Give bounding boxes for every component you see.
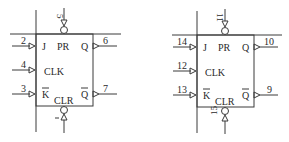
flipflop-diagram: 2 J 4 CLK 3 K PR 5 CLR Q 6 Q 7 (0, 0, 289, 142)
pr-label: PR (57, 41, 70, 52)
qbar-output-arrow-icon (254, 92, 260, 98)
clk-label: CLK (44, 66, 65, 77)
q-pin-number: 6 (103, 35, 108, 46)
qbar-pin-number: 9 (267, 84, 272, 95)
clr-inversion-bubble-icon (61, 107, 68, 114)
clr-inversion-bubble-icon (222, 108, 229, 115)
pr-inversion-bubble-icon (222, 28, 229, 35)
clr-input-arrow-icon (222, 115, 228, 121)
kbar-label: K (42, 89, 50, 100)
q-output-arrow-icon (254, 44, 260, 50)
qbar-pin-number: 7 (103, 83, 108, 94)
clk-pin-number: 4 (21, 59, 26, 70)
qbar-label: Q (242, 90, 250, 101)
q-label: Q (81, 41, 89, 52)
clr-label: CLR (215, 96, 235, 107)
j-label: J (42, 41, 46, 52)
clk-label: CLK (205, 67, 226, 78)
j-pin-number: 2 (21, 35, 26, 46)
pr-input-arrow-icon (61, 20, 67, 26)
pr-label: PR (218, 42, 231, 53)
q-pin-number: 10 (264, 36, 274, 47)
clr-label: CLR (54, 95, 74, 106)
q-label: Q (242, 42, 250, 53)
qbar-label: Q (81, 89, 89, 100)
q-output-arrow-icon (93, 43, 99, 49)
pr-input-arrow-icon (222, 21, 228, 27)
flipflop-1: 2 J 4 CLK 3 K PR 5 CLR Q 6 Q 7 (10, 8, 121, 133)
k-pin-number: 13 (177, 84, 187, 95)
j-pin-number: 14 (177, 36, 187, 47)
flipflop-2: 14 J 12 CLK 13 K PR 11 CLR 15 Q 10 Q 9 (172, 9, 282, 134)
k-pin-number: 3 (21, 83, 26, 94)
qbar-output-arrow-icon (93, 91, 99, 97)
pr-pin-number: 11 (215, 13, 225, 22)
kbar-label: K (203, 90, 211, 101)
pr-pin-number: 5 (55, 14, 65, 19)
clk-pin-number: 12 (177, 60, 187, 71)
j-label: J (203, 42, 207, 53)
pr-inversion-bubble-icon (61, 27, 68, 34)
clr-input-arrow-icon (61, 114, 67, 120)
clr-pin-number: 15 (209, 106, 219, 116)
